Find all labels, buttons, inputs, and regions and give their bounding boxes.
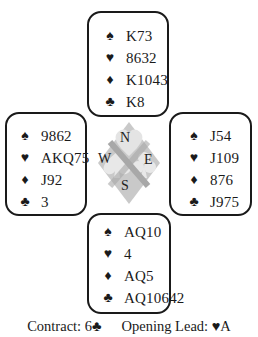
contract-footer: Contract: 6♣Opening Lead: ♥A: [0, 318, 258, 335]
spade-icon: ♠: [187, 128, 201, 144]
club-icon: ♣: [103, 94, 117, 110]
club-icon: ♣: [101, 290, 115, 306]
contract-label: Contract: 6: [27, 318, 92, 334]
west-hearts-row: ♥ AKQ75: [18, 147, 90, 169]
south-spades-row: ♠ AQ10: [101, 221, 161, 243]
east-clubs-row: ♣ J975: [187, 191, 239, 213]
south-clubs: AQ10642: [124, 290, 185, 307]
south-hearts: 4: [124, 246, 132, 263]
east-spades: J54: [210, 128, 231, 145]
east-hearts-row: ♥ J109: [187, 147, 239, 169]
south-diamonds: AQ5: [124, 268, 154, 285]
heart-icon: ♥: [187, 150, 201, 166]
south-diamonds-row: ♦ AQ5: [101, 265, 154, 287]
west-spades: 9862: [41, 128, 72, 145]
west-clubs: 3: [41, 194, 49, 211]
east-diamonds: 876: [210, 172, 233, 189]
west-hand: ♠ 9862 ♥ AKQ75 ♦ J92 ♣ 3: [5, 112, 87, 216]
east-hand: ♠ J54 ♥ J109 ♦ 876 ♣ J975: [169, 112, 252, 216]
spade-icon: ♠: [103, 28, 117, 44]
north-spades-row: ♠ K73: [103, 25, 152, 47]
west-diamonds: J92: [41, 172, 62, 189]
opening-lead-card: A: [220, 318, 230, 334]
diamond-icon: ♦: [187, 172, 201, 188]
west-clubs-row: ♣ 3: [18, 191, 49, 213]
spade-icon: ♠: [18, 128, 32, 144]
diamond-icon: ♦: [103, 72, 117, 88]
east-diamonds-row: ♦ 876: [187, 169, 233, 191]
west-diamonds-row: ♦ J92: [18, 169, 62, 191]
west-hearts: AKQ75: [41, 150, 90, 167]
north-hand: ♠ K73 ♥ 8632 ♦ K1043 ♣ K8: [87, 11, 169, 117]
compass-south-label: S: [121, 178, 129, 194]
south-hearts-row: ♥ 4: [101, 243, 132, 265]
compass-east-label: E: [144, 152, 153, 168]
south-hand: ♠ AQ10 ♥ 4 ♦ AQ5 ♣ AQ10642: [87, 213, 171, 314]
east-clubs: J975: [210, 194, 239, 211]
heart-icon: ♥: [18, 150, 32, 166]
heart-icon: ♥: [101, 246, 115, 262]
north-diamonds: K1043: [126, 72, 168, 89]
spade-icon: ♠: [101, 224, 115, 240]
north-diamonds-row: ♦ K1043: [103, 69, 168, 91]
north-clubs-row: ♣ K8: [103, 91, 145, 113]
north-hearts-row: ♥ 8632: [103, 47, 157, 69]
east-spades-row: ♠ J54: [187, 125, 231, 147]
north-clubs: K8: [126, 94, 145, 111]
south-clubs-row: ♣ AQ10642: [101, 287, 185, 309]
club-icon: ♣: [18, 194, 32, 210]
club-icon: ♣: [187, 194, 201, 210]
north-spades: K73: [126, 28, 152, 45]
heart-icon: ♥: [103, 50, 117, 66]
west-spades-row: ♠ 9862: [18, 125, 72, 147]
compass-north-label: N: [120, 130, 130, 146]
north-hearts: 8632: [126, 50, 157, 67]
diamond-icon: ♦: [18, 172, 32, 188]
diamond-icon: ♦: [101, 268, 115, 284]
south-spades: AQ10: [124, 224, 161, 241]
compass-west-label: W: [98, 151, 111, 167]
club-icon: ♣: [92, 318, 102, 334]
east-hearts: J109: [210, 150, 239, 167]
opening-lead-label: Opening Lead:: [122, 318, 212, 334]
compass-rose: N W E S: [96, 120, 162, 206]
